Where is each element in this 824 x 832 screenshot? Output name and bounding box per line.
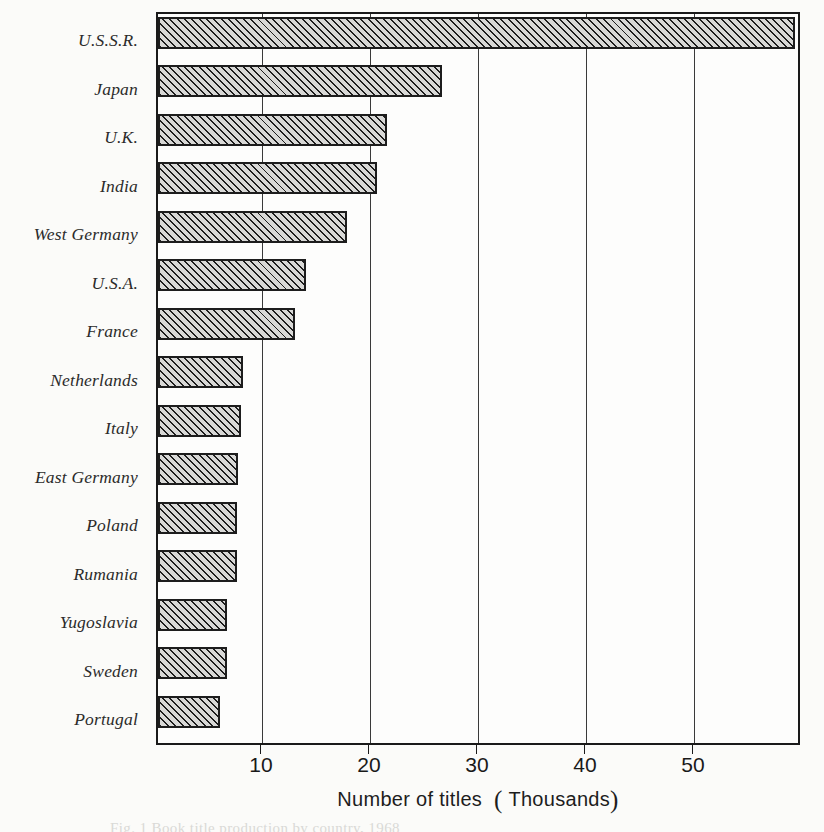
xtick-label-10: 10 bbox=[231, 754, 291, 775]
plot-area bbox=[156, 12, 800, 745]
xtick-label-40: 40 bbox=[555, 754, 615, 775]
category-label-france: France bbox=[0, 323, 138, 341]
bar-france bbox=[158, 308, 295, 340]
xtick-label-50: 50 bbox=[663, 754, 723, 775]
bar-rumania bbox=[158, 550, 237, 582]
x-axis-title-paren-close: ) bbox=[610, 786, 619, 813]
gridline-30 bbox=[478, 14, 479, 743]
category-label-japan: Japan bbox=[0, 81, 138, 99]
category-label-yugoslavia: Yugoslavia bbox=[0, 614, 138, 632]
category-label-usa: U.S.A. bbox=[0, 275, 138, 293]
bar-netherlands bbox=[158, 356, 243, 388]
category-label-sweden: Sweden bbox=[0, 663, 138, 681]
bar-uk bbox=[158, 114, 387, 146]
category-label-netherlands: Netherlands bbox=[0, 372, 138, 390]
xtick-label-30: 30 bbox=[447, 754, 507, 775]
x-axis-title: Number of titles ( Thousands) bbox=[156, 786, 800, 814]
gridline-40 bbox=[586, 14, 587, 743]
x-axis-title-main: Number of titles bbox=[337, 788, 482, 810]
bar-usa bbox=[158, 259, 306, 291]
category-label-ussr: U.S.S.R. bbox=[0, 32, 138, 50]
bar-japan bbox=[158, 65, 442, 97]
category-label-italy: Italy bbox=[0, 420, 138, 438]
gridline-50 bbox=[694, 14, 695, 743]
category-label-india: India bbox=[0, 178, 138, 196]
category-label-east-germany: East Germany bbox=[0, 469, 138, 487]
bar-portugal bbox=[158, 696, 220, 728]
category-label-west-germany: West Germany bbox=[0, 226, 138, 244]
category-label-portugal: Portugal bbox=[0, 711, 138, 729]
category-label-uk: U.K. bbox=[0, 129, 138, 147]
bar-east-germany bbox=[158, 453, 238, 485]
bar-yugoslavia bbox=[158, 599, 227, 631]
category-label-column: U.S.S.R. Japan U.K. India West Germany U… bbox=[0, 12, 148, 745]
bar-italy bbox=[158, 405, 241, 437]
bar-chart-figure: U.S.S.R. Japan U.K. India West Germany U… bbox=[0, 0, 824, 832]
bar-ussr bbox=[158, 17, 795, 49]
figure-caption: Fig. 1 Book title production by country,… bbox=[110, 820, 730, 832]
xtick-label-20: 20 bbox=[339, 754, 399, 775]
category-label-rumania: Rumania bbox=[0, 566, 138, 584]
category-label-poland: Poland bbox=[0, 517, 138, 535]
bar-poland bbox=[158, 502, 237, 534]
bar-india bbox=[158, 162, 377, 194]
bar-west-germany bbox=[158, 211, 347, 243]
bar-sweden bbox=[158, 647, 227, 679]
x-axis-title-paren-open: ( bbox=[494, 786, 503, 813]
x-axis-title-unit: Thousands bbox=[508, 788, 610, 810]
